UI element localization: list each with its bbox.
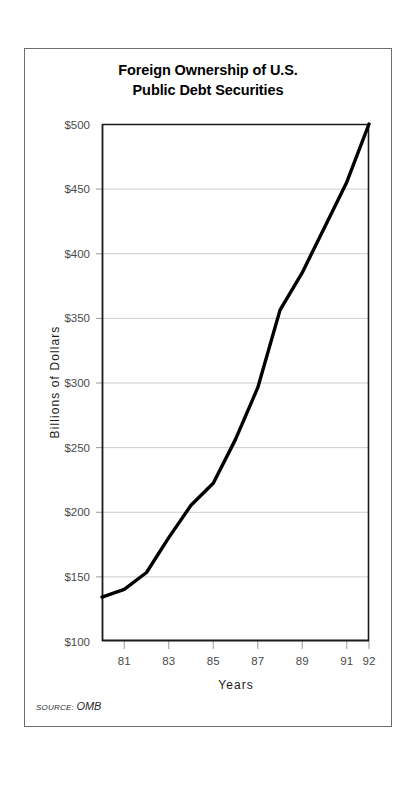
x-axis-tick-label: 87 (251, 655, 264, 667)
y-axis-tick-label: $400 (64, 248, 90, 260)
y-axis-tick-label: $150 (64, 571, 90, 583)
y-axis-tick-label: $100 (64, 636, 90, 648)
data-series-line (102, 124, 369, 597)
source-note: SOURCE: OMB (36, 700, 101, 712)
y-axis-title: Billions of Dollars (48, 326, 62, 439)
y-axis-tick-label: $200 (64, 506, 90, 518)
y-axis-tick-label: $250 (64, 442, 90, 454)
x-axis-tick-label: 91 (340, 655, 353, 667)
y-axis-tick-labels: $100$150$200$250$300$350$400$450$500 (64, 119, 90, 648)
source-value: OMB (76, 700, 101, 712)
y-axis-tick-label: $300 (64, 377, 90, 389)
x-axis-tick-label: 89 (296, 655, 309, 667)
x-axis-tick-label: 83 (162, 655, 175, 667)
line-chart-plot: $100$150$200$250$300$350$400$450$500 818… (0, 0, 416, 785)
source-label: SOURCE: (36, 703, 74, 712)
y-axis-tick-label: $500 (64, 119, 90, 131)
x-axis-tick-label: 85 (207, 655, 220, 667)
x-axis-title: Years (218, 678, 254, 692)
gridlines-group (96, 189, 369, 577)
y-axis-tick-label: $350 (64, 312, 90, 324)
x-axis-tick-label: 81 (118, 655, 131, 667)
figure-root: Foreign Ownership of U.S. Public Debt Se… (0, 0, 416, 785)
x-axis-tick-label: 92 (363, 655, 376, 667)
x-axis-tick-labels: 81838587899192 (118, 641, 376, 667)
y-axis-tick-label: $450 (64, 183, 90, 195)
